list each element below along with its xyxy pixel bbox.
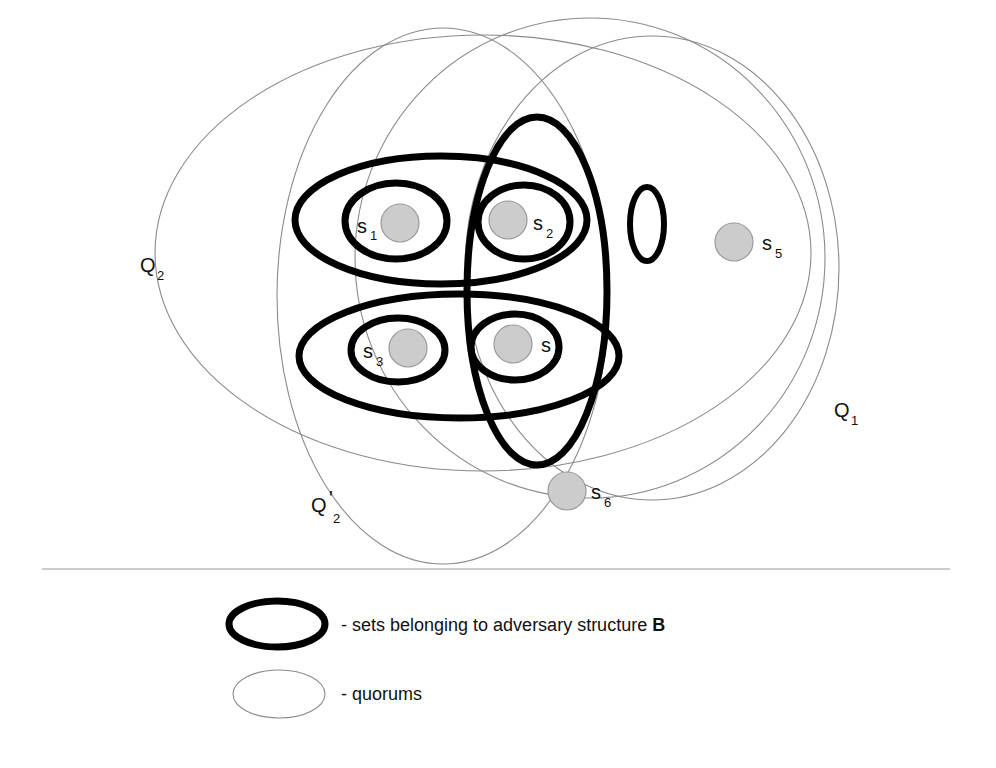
server-label-s6: s 6: [591, 481, 611, 510]
server-label-s2: s 2: [533, 212, 553, 241]
svg-text:s: s: [591, 481, 601, 503]
adversary-set-s3-s4: [299, 294, 619, 418]
svg-text:4: 4: [554, 348, 561, 363]
quorum-diagram: s 1 s 2 s 3 s 4 s 5 s 6 Q 2 Q 1 Q ' 2 - …: [0, 0, 996, 768]
svg-text:1: 1: [851, 413, 858, 428]
server-s3-node[interactable]: [389, 329, 427, 367]
svg-text:Q: Q: [311, 494, 327, 516]
svg-text:2: 2: [546, 226, 553, 241]
server-label-s5: s 5: [762, 232, 782, 261]
svg-text:s: s: [363, 340, 373, 362]
server-s5-node[interactable]: [715, 223, 753, 261]
svg-text:Q: Q: [834, 399, 850, 421]
svg-text:': ': [329, 487, 333, 509]
server-s4-node[interactable]: [494, 325, 532, 363]
server-label-s1: s 1: [357, 215, 377, 243]
quorum-label-q2-prime: Q ' 2: [311, 487, 340, 526]
legend-quorum-swatch-icon: [233, 670, 325, 718]
svg-text:2: 2: [333, 511, 340, 526]
svg-text:s: s: [533, 212, 543, 234]
server-label-s3: s 3: [363, 340, 383, 369]
quorum-label-q2: Q 2: [140, 254, 164, 283]
legend-adversary-text: - sets belonging to adversary structure …: [341, 615, 665, 635]
svg-text:s: s: [762, 232, 772, 254]
legend: - sets belonging to adversary structure …: [229, 601, 665, 718]
svg-text:5: 5: [775, 246, 782, 261]
adversary-set-s1-s2: [295, 156, 587, 284]
server-s6-node[interactable]: [548, 472, 586, 510]
svg-text:s: s: [357, 215, 367, 237]
svg-text:s: s: [541, 334, 551, 356]
adversary-set-empty: [630, 187, 664, 261]
legend-quorum-text: - quorums: [341, 684, 422, 704]
svg-text:3: 3: [376, 354, 383, 369]
svg-text:Q: Q: [140, 254, 156, 276]
server-s1-node[interactable]: [381, 204, 419, 242]
server-s2-node[interactable]: [489, 201, 527, 239]
quorum-label-q1: Q 1: [834, 399, 858, 428]
legend-adversary-swatch-icon: [229, 601, 325, 647]
svg-text:1: 1: [370, 228, 377, 243]
svg-text:2: 2: [157, 268, 164, 283]
quorum-q1-ellipse: [465, 36, 839, 500]
quorum-top-ellipse: [355, 18, 825, 498]
svg-text:6: 6: [604, 495, 611, 510]
